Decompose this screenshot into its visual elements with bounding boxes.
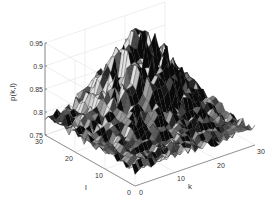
k-tick-label: 30 — [257, 148, 265, 155]
z-axis-label: p(k,l) — [8, 83, 17, 101]
z-tick-label: 0.85 — [29, 86, 43, 93]
surface-plot: 0.750.80.850.90.9501020300102030 p(k,l) … — [0, 0, 279, 203]
z-tick-label: 0.95 — [29, 40, 43, 47]
k-tick-label: 0 — [139, 189, 143, 196]
z-tick-label: 0.9 — [33, 63, 43, 70]
l-axis-label: l — [85, 183, 87, 192]
l-tick-label: 10 — [95, 172, 103, 179]
l-tick-label: 0 — [127, 189, 131, 196]
k-tick-label: 10 — [177, 175, 185, 182]
l-tick-label: 20 — [65, 155, 73, 162]
k-axis-label: k — [188, 182, 193, 191]
k-tick-label: 20 — [217, 162, 225, 169]
l-tick-label: 30 — [35, 138, 43, 145]
z-tick-label: 0.8 — [33, 109, 43, 116]
